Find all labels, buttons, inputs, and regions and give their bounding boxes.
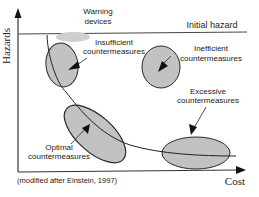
warning-label-line1: Warning bbox=[83, 7, 113, 16]
warning-label-line2: devices bbox=[84, 17, 111, 26]
optimal-region bbox=[55, 95, 136, 173]
insufficient-label-line2: countermeasures bbox=[83, 47, 145, 56]
initial-hazard-line bbox=[18, 32, 247, 34]
optimal-label-line1: Optimal bbox=[45, 143, 73, 152]
insufficient-label-line1: Insufficient bbox=[95, 38, 134, 47]
x-axis bbox=[18, 170, 238, 172]
y-axis-arrow-icon bbox=[15, 8, 22, 18]
warning-devices-region bbox=[56, 32, 90, 42]
x-axis-label: Cost bbox=[225, 175, 245, 187]
optimal-label-line2: countermeasures bbox=[28, 152, 90, 161]
y-axis-label: Hazards bbox=[0, 28, 12, 64]
excessive-label-line2: countermeasures bbox=[177, 96, 239, 105]
x-axis-arrow-icon bbox=[236, 166, 246, 174]
inefficient-label-line2: countermeasures bbox=[180, 54, 242, 63]
caption: (modified after Einstein, 1997) bbox=[17, 176, 118, 185]
inefficient-label-line1: Inefficient bbox=[194, 44, 229, 53]
hazard-cost-diagram: Hazards Cost Initial hazard Warning devi… bbox=[0, 0, 259, 197]
initial-hazard-label: Initial hazard bbox=[186, 20, 237, 30]
excessive-label-line1: Excessive bbox=[190, 87, 227, 96]
